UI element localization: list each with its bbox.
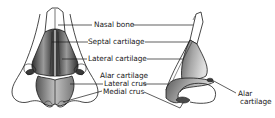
side-lateral-cartilage [181, 40, 207, 80]
front-view [12, 8, 98, 107]
nose-cartilage-diagram: Nasal bone Septal cartilage Lateral cart… [0, 0, 275, 118]
label-septal-cartilage: Septal cartilage [88, 38, 145, 45]
label-nasal-bone: Nasal bone [94, 21, 134, 28]
side-alar-cartilage [166, 78, 214, 103]
label-medial-crus: Medial crus [103, 88, 144, 95]
side-nasal-bone [190, 12, 203, 44]
label-lateral-cartilage: Lateral cartilage [88, 55, 147, 62]
side-view [166, 12, 216, 103]
label-alar-side-line2: cartilage [240, 98, 272, 105]
